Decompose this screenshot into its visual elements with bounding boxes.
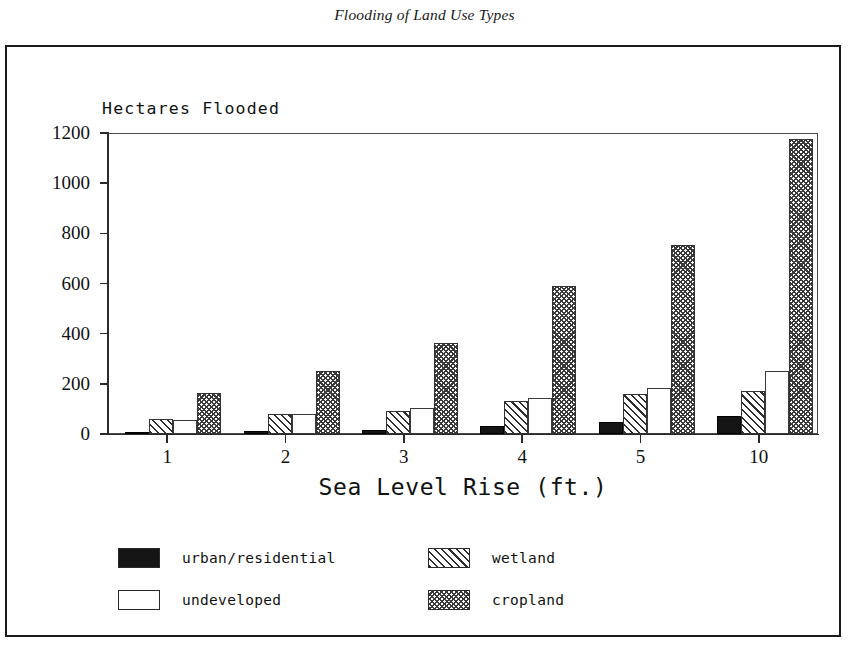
legend-swatch-icon — [428, 548, 470, 568]
bar-urban-residential-4 — [480, 426, 504, 434]
x-tick-label: 4 — [492, 446, 552, 468]
bar-urban-residential-3 — [362, 430, 386, 435]
bar-urban-residential-2 — [244, 431, 268, 434]
bar-undeveloped-4 — [528, 398, 552, 434]
y-tick-label: 800 — [26, 222, 90, 244]
y-tick-label: 1200 — [26, 122, 90, 144]
bar-undeveloped-1 — [173, 420, 197, 434]
bar-cropland-4 — [552, 286, 576, 434]
legend-label: wetland — [492, 550, 555, 566]
bar-undeveloped-5 — [647, 388, 671, 434]
legend-item: cropland — [428, 590, 564, 610]
x-tick — [285, 434, 286, 443]
legend-label: undeveloped — [182, 592, 281, 608]
x-tick — [166, 434, 167, 443]
legend-swatch-icon — [118, 548, 160, 568]
bar-cropland-1 — [197, 393, 221, 434]
bar-undeveloped-3 — [410, 408, 434, 434]
x-axis-title: Sea Level Rise (ft.) — [108, 474, 818, 500]
x-tick-label: 10 — [729, 446, 789, 468]
x-tick-label: 3 — [374, 446, 434, 468]
bar-wetland-3 — [386, 411, 410, 434]
x-tick — [640, 434, 641, 443]
y-tick-label: 600 — [26, 273, 90, 295]
bar-cropland-2 — [316, 371, 340, 434]
bars-layer — [108, 133, 818, 434]
x-tick-label: 5 — [611, 446, 671, 468]
bar-wetland-4 — [504, 401, 528, 434]
bar-wetland-10 — [741, 391, 765, 434]
legend-item: undeveloped — [118, 590, 281, 610]
y-tick-label: 1000 — [26, 172, 90, 194]
legend-label: urban/residential — [182, 550, 336, 566]
figure: Flooding of Land Use Types Hectares Floo… — [0, 0, 849, 649]
bar-urban-residential-1 — [125, 432, 149, 435]
legend-label: cropland — [492, 592, 564, 608]
bar-cropland-3 — [434, 343, 458, 434]
y-tick-label: 400 — [26, 323, 90, 345]
bar-undeveloped-2 — [292, 414, 316, 434]
legend-swatch-icon — [428, 590, 470, 610]
bar-wetland-1 — [149, 419, 173, 434]
bar-cropland-5 — [671, 245, 695, 434]
bar-urban-residential-10 — [717, 416, 741, 434]
x-tick — [521, 434, 522, 443]
bar-cropland-10 — [789, 139, 813, 434]
bar-undeveloped-10 — [765, 371, 789, 434]
y-axis-title: Hectares Flooded — [102, 99, 280, 118]
y-tick-label: 200 — [26, 373, 90, 395]
bar-wetland-2 — [268, 414, 292, 434]
y-tick-label: 0 — [26, 423, 90, 445]
x-tick-label: 1 — [137, 446, 197, 468]
legend-item: wetland — [428, 548, 555, 568]
x-tick — [403, 434, 404, 443]
x-tick-label: 2 — [256, 446, 316, 468]
bar-wetland-5 — [623, 394, 647, 434]
bar-urban-residential-5 — [599, 422, 623, 434]
legend-swatch-icon — [118, 590, 160, 610]
legend-item: urban/residential — [118, 548, 336, 568]
x-tick — [758, 434, 759, 443]
legend: urban/residentialundevelopedwetlandcropl… — [118, 548, 738, 620]
